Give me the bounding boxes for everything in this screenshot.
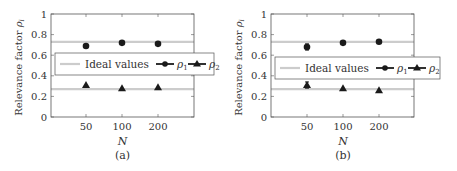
legend: Ideal valuesρ1ρ2 (55, 53, 220, 75)
legend: Ideal valuesρ1ρ2 (275, 57, 440, 79)
circle-marker (119, 40, 126, 47)
circle-marker (376, 39, 383, 46)
x-tick-label: 200 (148, 121, 167, 132)
legend-circle-icon (382, 65, 388, 71)
y-tick-label: 0.6 (31, 50, 47, 61)
triangle-marker (303, 81, 311, 88)
panel-caption: (a) (115, 149, 130, 162)
x-tick-label: 200 (369, 121, 388, 132)
legend-circle-icon (162, 61, 168, 67)
legend-ideal-label: Ideal values (85, 58, 149, 70)
circle-marker (304, 44, 311, 51)
y-tick-label: 0.6 (251, 50, 267, 61)
circle-marker (340, 40, 347, 47)
y-tick-label: 0 (261, 112, 267, 123)
y-tick-label: 1 (41, 9, 47, 20)
y-tick-label: 0.2 (251, 91, 267, 102)
triangle-marker (118, 84, 126, 91)
panel-b: 00.20.40.60.8150100200Relevance factor ρ… (233, 9, 440, 163)
y-tick-label: 0.4 (251, 70, 267, 81)
y-axis-label: Relevance factor ρi (233, 19, 246, 116)
y-tick-label: 1 (261, 9, 267, 20)
triangle-marker (339, 84, 347, 91)
circle-marker (155, 41, 162, 48)
y-tick-label: 0.4 (31, 70, 47, 81)
y-tick-label: 0.8 (31, 29, 47, 40)
y-tick-label: 0.2 (31, 91, 47, 102)
chart-figure: 00.20.40.60.8150100200Relevance factor ρ… (0, 0, 457, 171)
circle-marker (83, 43, 90, 50)
x-tick-label: 100 (333, 121, 352, 132)
x-tick-label: 100 (112, 121, 131, 132)
x-tick-label: 50 (301, 121, 314, 132)
panel-caption: (b) (335, 149, 351, 162)
x-tick-label: 50 (80, 121, 93, 132)
y-tick-label: 0 (41, 112, 47, 123)
x-axis-label: N (117, 135, 128, 148)
y-axis-label: Relevance factor ρi (13, 19, 26, 116)
triangle-marker (154, 83, 162, 90)
triangle-marker (82, 81, 90, 88)
legend-rho2-label: ρ2 (208, 58, 220, 72)
panel-a: 00.20.40.60.8150100200Relevance factor ρ… (13, 9, 220, 163)
x-axis-label: N (337, 135, 348, 148)
y-tick-label: 0.8 (251, 29, 267, 40)
legend-ideal-label: Ideal values (305, 62, 369, 74)
